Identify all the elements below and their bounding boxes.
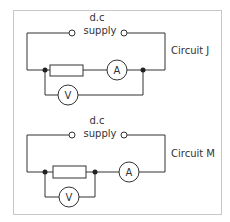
circuit-diagram: d.c supply A V Circuit J d.c supply A V … bbox=[0, 0, 230, 222]
resistor bbox=[50, 65, 83, 76]
circuit-j: d.c supply A V Circuit J bbox=[27, 12, 209, 105]
circuit-m: d.c supply A V Circuit M bbox=[27, 115, 215, 207]
supply-label-supply: supply bbox=[84, 128, 117, 139]
junction-dot bbox=[93, 170, 98, 175]
supply-terminal-left bbox=[69, 30, 75, 36]
resistor bbox=[53, 166, 86, 178]
ammeter-label: A bbox=[126, 167, 133, 178]
ammeter-label: A bbox=[114, 65, 121, 76]
junction-dot bbox=[43, 68, 48, 73]
supply-label-dc: d.c bbox=[89, 115, 104, 126]
junction-dot bbox=[43, 170, 48, 175]
supply-label-dc: d.c bbox=[89, 12, 104, 23]
wire-right bbox=[127, 33, 165, 70]
wire-left bbox=[27, 33, 69, 70]
junction-dot bbox=[141, 68, 146, 73]
supply-terminal-left bbox=[69, 132, 75, 138]
supply-terminal-right bbox=[121, 132, 127, 138]
supply-label-supply: supply bbox=[84, 25, 117, 36]
voltmeter-label: V bbox=[66, 192, 73, 203]
circuit-j-label: Circuit J bbox=[171, 45, 209, 56]
supply-terminal-right bbox=[121, 30, 127, 36]
voltmeter-label: V bbox=[65, 90, 72, 101]
circuit-m-label: Circuit M bbox=[171, 148, 215, 159]
